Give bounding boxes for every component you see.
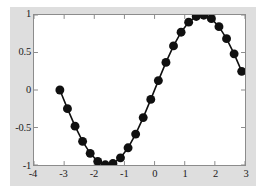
data-point bbox=[71, 122, 80, 131]
data-point bbox=[230, 49, 239, 58]
data-point bbox=[215, 22, 224, 31]
y-tick-label: 0.5 bbox=[18, 47, 31, 58]
data-point bbox=[124, 143, 133, 152]
data-point bbox=[139, 113, 148, 122]
data-point bbox=[116, 153, 125, 162]
x-tick-label: -1 bbox=[120, 169, 128, 180]
x-tick-label: -4 bbox=[29, 169, 37, 180]
data-point bbox=[131, 130, 140, 139]
x-tick-label: -2 bbox=[90, 169, 98, 180]
data-point bbox=[177, 28, 186, 37]
data-point bbox=[199, 15, 208, 20]
y-tick-label: -0.5 bbox=[15, 123, 31, 134]
y-tick-label: 1 bbox=[26, 9, 31, 20]
data-point bbox=[63, 104, 72, 113]
x-tick-label: 1 bbox=[183, 169, 188, 180]
series-markers-sin bbox=[55, 15, 245, 165]
data-point bbox=[108, 159, 117, 165]
data-point bbox=[184, 18, 193, 27]
data-point bbox=[237, 67, 245, 76]
chart-canvas bbox=[34, 15, 245, 165]
data-point bbox=[169, 41, 178, 50]
data-point bbox=[192, 15, 201, 21]
series-line-sin bbox=[60, 15, 242, 165]
x-axis-tick-labels: -4-3-2-10123 bbox=[33, 169, 246, 183]
data-point bbox=[86, 149, 95, 158]
y-tick-label: 0 bbox=[26, 85, 31, 96]
y-axis-tick-labels: -1-0.500.51 bbox=[10, 14, 31, 166]
data-point bbox=[146, 95, 155, 104]
x-tick-label: 2 bbox=[213, 169, 218, 180]
x-tick-label: 3 bbox=[243, 169, 248, 180]
axis-tick-marks bbox=[34, 15, 245, 165]
x-tick-label: -3 bbox=[59, 169, 67, 180]
data-point bbox=[154, 76, 163, 85]
x-tick-label: 0 bbox=[152, 169, 157, 180]
data-point bbox=[78, 137, 87, 146]
data-point bbox=[222, 34, 231, 43]
plot-area bbox=[33, 14, 246, 166]
data-point bbox=[161, 58, 170, 67]
data-point bbox=[55, 86, 64, 95]
figure-background: -1-0.500.51 -4-3-2-10123 bbox=[10, 7, 256, 186]
data-point bbox=[101, 160, 110, 165]
